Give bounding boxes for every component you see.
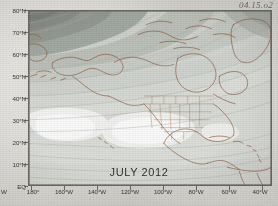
x-tick-label-80w: 80°W: [189, 188, 204, 195]
y-tick-label-80n: 80°N: [0, 7, 26, 14]
x-tick-label-120w: 120°W: [121, 188, 139, 195]
x-edge-label-w: W: [1, 188, 7, 195]
map-svg: [29, 11, 271, 185]
y-tick-label-50n: 50°N: [0, 73, 26, 80]
x-tick-label-40w: 40°W: [253, 188, 268, 195]
y-tick-label-70n: 70°N: [0, 29, 26, 36]
y-tick-label-40n: 40°N: [0, 95, 26, 102]
x-tick-label-180: 180°: [27, 188, 39, 195]
map-plot-area[interactable]: [28, 10, 272, 186]
x-tick-label-140w: 140°W: [88, 188, 106, 195]
x-tick-label-160w: 160°W: [55, 188, 73, 195]
scanned-page: 04.15.o2: [0, 0, 278, 206]
y-tick-label-20n: 20°N: [0, 139, 26, 146]
y-tick-label-30n: 30°N: [0, 117, 26, 124]
contour-field: [29, 11, 271, 185]
y-tick-label-10n: 10°N: [0, 161, 26, 168]
x-tick-label-100w: 100°W: [154, 188, 172, 195]
scan-date-stamp: 04.15.o2: [239, 0, 273, 10]
map-title: JULY 2012: [110, 166, 169, 178]
x-tick-label-60w: 60°W: [222, 188, 237, 195]
y-tick-label-60n: 60°N: [0, 51, 26, 58]
